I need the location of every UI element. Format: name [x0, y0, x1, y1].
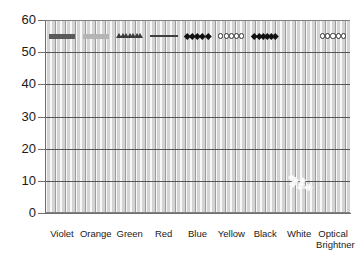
y-tick-mark — [38, 149, 45, 150]
plot-top-border — [45, 20, 350, 21]
y-tick-mark — [38, 84, 45, 85]
x-axis-category-labels: VioletOrangeGreenRedBlueYellowBlackWhite… — [45, 228, 350, 267]
data-point — [218, 33, 223, 38]
gridline — [45, 149, 350, 150]
x-axis-line — [45, 213, 351, 214]
y-tick-label: 40 — [6, 77, 36, 90]
gridline — [45, 117, 350, 118]
data-point — [137, 33, 143, 38]
x-category-label: Black — [248, 228, 282, 239]
x-category-label: Blue — [181, 228, 215, 239]
y-tick-mark — [38, 213, 45, 214]
data-point — [224, 33, 229, 38]
data-point — [205, 33, 211, 39]
y-axis-line — [45, 20, 46, 214]
data-point — [273, 33, 279, 39]
y-tick-label: 20 — [6, 142, 36, 155]
data-point — [330, 33, 335, 38]
x-category-label: Green — [113, 228, 147, 239]
x-category-label: Orange — [79, 228, 113, 239]
data-point — [341, 33, 346, 38]
x-category-label: Violet — [45, 228, 79, 239]
plot-area — [45, 20, 350, 213]
gridline — [45, 52, 350, 53]
data-point — [171, 35, 178, 37]
y-tick-label: 10 — [6, 174, 36, 187]
y-tick-mark — [38, 117, 45, 118]
y-tick-label: 30 — [6, 110, 36, 123]
y-tick-mark — [38, 52, 45, 53]
y-tick-label: 0 — [6, 206, 36, 219]
y-tick-mark — [38, 181, 45, 182]
gridline — [45, 84, 350, 85]
y-tick-mark — [38, 20, 45, 21]
data-point — [306, 184, 313, 191]
chart-figure: 6050403020100 VioletOrangeGreenRedBlueYe… — [0, 0, 364, 267]
y-tick-label: 50 — [6, 45, 36, 58]
data-point — [239, 33, 244, 38]
x-category-label: Red — [147, 228, 181, 239]
data-point — [104, 34, 109, 39]
x-category-label: White — [282, 228, 316, 239]
x-category-label: Yellow — [214, 228, 248, 239]
y-tick-label: 60 — [6, 13, 36, 26]
data-point — [70, 34, 75, 39]
x-category-label: OpticalBrightner — [316, 228, 350, 250]
